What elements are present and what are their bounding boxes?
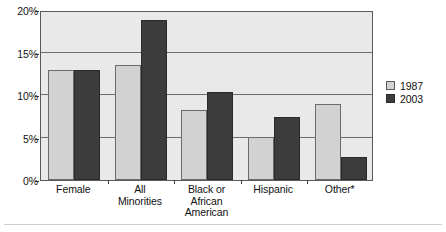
legend-swatch-icon — [386, 94, 395, 103]
bar-group — [307, 12, 374, 180]
bar-2003-blackorafricanamerican — [207, 92, 233, 180]
bar-group — [241, 12, 308, 180]
x-axis-label: Female — [40, 184, 107, 196]
legend-label: 2003 — [400, 94, 423, 104]
bar-2003-other — [341, 157, 367, 180]
y-axis-tick-label: 10% — [4, 91, 38, 101]
bar-group — [108, 12, 175, 180]
y-axis-tick-mark — [35, 181, 39, 182]
x-axis-label-line: Minorities — [107, 196, 174, 208]
x-axis-label: Other* — [306, 184, 373, 196]
y-axis-tick-mark — [35, 96, 39, 97]
bar-1987-allminorities — [115, 65, 141, 180]
page-rule-divider — [4, 224, 442, 225]
y-axis-tick-mark — [35, 11, 39, 12]
legend-item-2003: 2003 — [386, 93, 446, 104]
bar-1987-female — [48, 70, 74, 180]
bar-1987-other — [315, 104, 341, 180]
y-axis-tick-mark — [35, 139, 39, 140]
x-axis-label: Hispanic — [240, 184, 307, 196]
bar-2003-female — [74, 70, 100, 180]
y-axis-tick-label: 15% — [4, 49, 38, 59]
y-axis-tick-mark — [35, 54, 39, 55]
legend-swatch-icon — [386, 81, 395, 90]
y-axis-tick-label: 20% — [4, 6, 38, 16]
bar-chart-figure: 0%5%10%15%20% FemaleAllMinoritiesBlack o… — [0, 0, 446, 232]
x-axis-label: Black orAfricanAmerican — [173, 184, 240, 219]
x-axis-label-line: Other* — [306, 184, 373, 196]
x-axis-label-line: Hispanic — [240, 184, 307, 196]
x-axis-label-line: Black or — [173, 184, 240, 196]
bar-2003-allminorities — [141, 20, 167, 180]
x-axis-label-line: American — [173, 207, 240, 219]
bar-group — [174, 12, 241, 180]
chart-legend: 19872003 — [386, 80, 446, 106]
x-axis-label-line: All — [107, 184, 174, 196]
y-axis: 0%5%10%15%20% — [0, 0, 38, 232]
bar-1987-hispanic — [248, 137, 274, 180]
x-axis-label-line: Female — [40, 184, 107, 196]
y-axis-tick-label: 5% — [4, 134, 38, 144]
y-axis-tick-label: 0% — [4, 176, 38, 186]
bar-2003-hispanic — [274, 117, 300, 180]
bar-1987-blackorafricanamerican — [181, 110, 207, 180]
plot-inner — [41, 12, 372, 180]
x-axis-label: AllMinorities — [107, 184, 174, 207]
legend-label: 1987 — [400, 81, 423, 91]
plot-area — [40, 11, 373, 181]
bar-group — [41, 12, 108, 180]
legend-item-1987: 1987 — [386, 80, 446, 91]
